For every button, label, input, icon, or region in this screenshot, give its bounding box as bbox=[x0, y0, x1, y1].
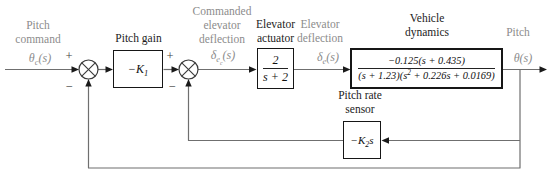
vehicle-denominator-pre: (s + 1.23)(s bbox=[358, 70, 407, 81]
commanded-label-line1: Commanded bbox=[187, 4, 257, 18]
elevator-actuator-denominator: s + 2 bbox=[263, 69, 288, 84]
elevator-actuator-block: 2 s + 2 bbox=[257, 48, 294, 89]
vehicle-dynamics-title-line1: Vehicle bbox=[389, 12, 465, 26]
pitch-rate-sensor-block: −K2s bbox=[343, 121, 381, 159]
pitch-output-label-text: Pitch bbox=[497, 26, 539, 40]
signal-delta-ec: δec(s) bbox=[203, 48, 243, 63]
pitch-rate-sensor-expression: −K2s bbox=[351, 134, 374, 146]
sensor-feedback-line bbox=[189, 86, 344, 141]
pitch-command-label: Pitch command bbox=[6, 19, 70, 46]
elevator-actuator-title-line1: Elevator bbox=[247, 18, 304, 32]
elevator-actuator-fraction: 2 s + 2 bbox=[263, 53, 288, 84]
pitch-gain-block: −K1 bbox=[113, 50, 163, 88]
pitch-rate-sensor-title-line2: sensor bbox=[324, 103, 396, 117]
pitch-command-label-line1: Pitch bbox=[6, 19, 70, 33]
sum1-plus-sign: + bbox=[62, 50, 76, 62]
arrowhead-into-actuator bbox=[249, 66, 257, 72]
vehicle-dynamics-numerator: −0.125(s + 0.435) bbox=[358, 55, 494, 69]
pitch-command-label-line2: command bbox=[6, 33, 70, 47]
theta-c-args: (s) bbox=[38, 51, 51, 65]
arrowhead-feedback-sum2 bbox=[185, 79, 191, 87]
elevator-actuator-title: Elevator actuator bbox=[247, 18, 304, 45]
pitch-rate-sensor-title-line1: Pitch rate bbox=[324, 89, 396, 103]
vehicle-dynamics-denominator: (s + 1.23)(s2 + 0.226s + 0.0169) bbox=[358, 69, 494, 82]
sum1-minus-sign: − bbox=[62, 81, 76, 93]
signal-delta-e: δe(s) bbox=[310, 50, 346, 65]
sensor-gain-base: −K bbox=[351, 134, 366, 146]
pitch-gain-title: Pitch gain bbox=[101, 32, 176, 46]
delta-ec-args: (s) bbox=[223, 48, 236, 62]
vehicle-dynamics-fraction: −0.125(s + 0.435) (s + 1.23)(s2 + 0.226s… bbox=[358, 55, 494, 83]
arrowhead-into-pitch-gain bbox=[106, 66, 114, 72]
elevator-actuator-numerator: 2 bbox=[263, 53, 288, 69]
pitch-rate-sensor-title: Pitch rate sensor bbox=[324, 89, 396, 116]
pitch-gain-subscript: 1 bbox=[144, 69, 148, 78]
arrowhead-output bbox=[540, 66, 548, 72]
vehicle-dynamics-title: Vehicle dynamics bbox=[389, 12, 465, 39]
arrowhead-into-sensor bbox=[382, 137, 390, 143]
signal-theta: θ(s) bbox=[505, 51, 541, 66]
vehicle-dynamics-title-line2: dynamics bbox=[389, 26, 465, 40]
vehicle-denominator-post: + 0.226s + 0.0169) bbox=[411, 70, 495, 81]
elevator-actuator-title-line2: actuator bbox=[247, 32, 304, 46]
signal-theta-c: θc(s) bbox=[20, 51, 60, 66]
theta-args: (s) bbox=[520, 51, 533, 65]
pitch-control-block-diagram: Pitch command Commanded elevator deflect… bbox=[0, 0, 559, 181]
sensor-gain-variable: s bbox=[369, 134, 373, 146]
sum2-minus-sign: − bbox=[165, 81, 179, 93]
pitch-gain-expression: −K1 bbox=[128, 62, 148, 77]
sum2-plus-sign: + bbox=[163, 50, 177, 62]
pitch-gain-base: −K bbox=[128, 62, 144, 76]
pitch-gain-title-text: Pitch gain bbox=[101, 32, 176, 46]
arrowhead-feedback-sum1 bbox=[85, 79, 91, 87]
vehicle-dynamics-block: −0.125(s + 0.435) (s + 1.23)(s2 + 0.226s… bbox=[350, 48, 503, 89]
arrowhead-into-sum1 bbox=[72, 66, 80, 72]
arrowhead-into-sum2 bbox=[172, 66, 180, 72]
delta-e-args: (s) bbox=[326, 50, 339, 64]
pitch-output-label: Pitch bbox=[497, 26, 539, 40]
